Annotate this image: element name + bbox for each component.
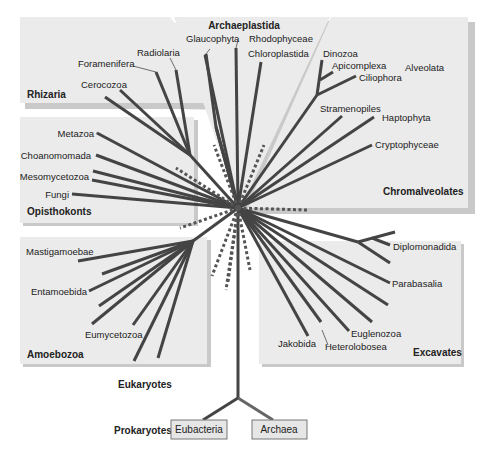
taxon-label-mastigamoebae: Mastigamoebae xyxy=(26,246,94,257)
domain-label-eukaryotes: Eukaryotes xyxy=(118,379,172,390)
box-eubacteria: Eubacteria xyxy=(171,420,227,439)
taxon-label-radiolaria: Radiolaria xyxy=(137,47,180,58)
taxon-label-diplomonadida: Diplomonadida xyxy=(393,241,457,252)
taxon-label-fungi: Fungi xyxy=(45,189,69,200)
taxon-label-rhodophyceae: Rhodophyceae xyxy=(249,33,313,44)
taxon-label-haptophyta: Haptophyta xyxy=(382,112,431,123)
domain-label-prokaryotes: Prokaryotes xyxy=(114,425,172,436)
taxon-label-entamoebida: Entamoebida xyxy=(31,286,88,297)
phylogenetic-tree-diagram: Archaeplastida Glaucophyta Rhodophyceae … xyxy=(0,0,490,451)
group-label-excavates: Excavates xyxy=(413,347,462,358)
taxon-label-foramenifera: Foramenifera xyxy=(78,58,135,69)
taxon-label-jakobida: Jakobida xyxy=(278,338,317,349)
taxon-label-cryptophyceae: Cryptophyceae xyxy=(375,139,439,150)
taxon-label-parabasalia: Parabasalia xyxy=(392,278,443,289)
domain-label-archaea: Archaea xyxy=(260,424,298,435)
taxon-label-mesomycetozoa: Mesomycetozoa xyxy=(20,171,90,182)
taxon-label-glaucophyta: Glaucophyta xyxy=(186,33,240,44)
group-label-amoebozoa: Amoebozoa xyxy=(27,349,84,360)
group-label-opisthokonts: Opisthokonts xyxy=(27,206,92,217)
taxon-label-cerocozoa: Cerocozoa xyxy=(81,79,128,90)
taxon-label-stramenopiles: Stramenopiles xyxy=(320,103,381,114)
taxon-label-metazoa: Metazoa xyxy=(58,128,95,139)
box-archaea: Archaea xyxy=(252,420,307,439)
taxon-label-choanomomada: Choanomomada xyxy=(21,150,92,161)
taxon-label-dinozoa: Dinozoa xyxy=(323,48,359,59)
domain-label-eubacteria: Eubacteria xyxy=(175,424,223,435)
group-label-rhizaria: Rhizaria xyxy=(27,89,66,100)
taxon-label-euglenozoa: Euglenozoa xyxy=(351,328,402,339)
group-label-archaeplastida: Archaeplastida xyxy=(208,20,280,31)
taxon-label-eumycetozoa: Eumycetozoa xyxy=(85,329,143,340)
taxon-label-heterolobosea: Heterolobosea xyxy=(325,341,388,352)
taxon-label-apicomplexa: Apicomplexa xyxy=(332,60,387,71)
subgroup-label-alveolata: Alveolata xyxy=(405,62,445,73)
taxon-label-chloroplastida: Chloroplastida xyxy=(248,48,309,59)
group-label-chromalveolates: Chromalveolates xyxy=(383,186,464,197)
taxon-label-ciliophora: Ciliophora xyxy=(359,72,402,83)
